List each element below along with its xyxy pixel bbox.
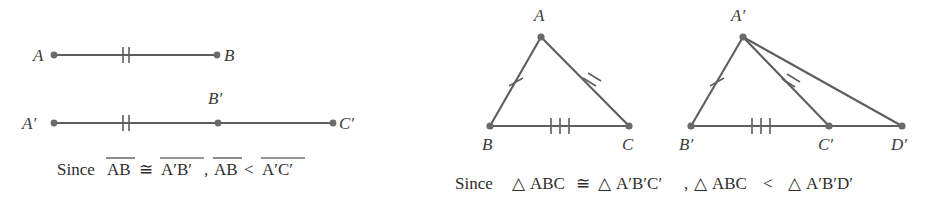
right-caption-tri-symbol-4: △ [788, 174, 802, 193]
point-a-prime-label: A′ [21, 114, 36, 133]
right-caption-comma: , [684, 174, 688, 193]
right-caption-less-than: < [763, 174, 773, 193]
left-caption-congruent: ≅ [139, 160, 153, 179]
point-b-prime-label: B′ [208, 89, 222, 108]
triangle-abcd-vertex-d-dot [898, 122, 905, 129]
right-caption-tri-symbol-2: △ [598, 174, 612, 193]
left-caption-less-than: < [244, 160, 254, 179]
triangle-abcd-tick-ac-2 [787, 74, 800, 82]
left-caption-seg-apcp: A′C′ [262, 160, 293, 179]
triangle-abcd-label-c: C′ [818, 135, 833, 154]
right-caption-tri-abc: ABC [530, 174, 565, 193]
right-caption-tri-abc-2: ABC [712, 174, 747, 193]
triangle-abcd-vertex-b-dot [687, 122, 694, 129]
right-caption-tri-apbpdp: A′B′D′ [806, 174, 853, 193]
triangle-abcd-tick-ac-1 [782, 79, 795, 87]
point-c-prime-dot [330, 120, 337, 127]
triangle-abc-vertex-a-dot [537, 33, 544, 40]
triangle-abc-side-ac [541, 37, 629, 126]
point-b-dot [214, 52, 221, 59]
right-caption: Since △ ABC ≅ △ A′B′C′ , △ ABC < △ A′B′D… [455, 174, 853, 193]
point-c-prime-label: C′ [339, 114, 354, 133]
segment-abc-group: A′ B′ C′ [21, 89, 354, 133]
triangle-abcd-label-a: A′ [730, 6, 745, 25]
triangle-abcd-group: A′ B′ C′ D′ [679, 6, 907, 154]
triangle-abcd-label-d: D′ [890, 135, 907, 154]
geometry-figure: A B A′ B′ C′ Since AB ≅ A′B′ , AB < [0, 0, 946, 204]
left-caption-seg-apbp: A′B′ [161, 160, 192, 179]
point-b-prime-dot [215, 120, 222, 127]
left-caption-seg-ab-2: AB [214, 160, 238, 179]
triangle-abcd-vertex-a-dot [739, 33, 746, 40]
triangle-abcd-vertex-c-dot [825, 122, 832, 129]
triangle-abc-tick-ac-2 [588, 73, 601, 81]
triangle-abcd-label-b: B′ [679, 135, 693, 154]
point-a-prime-dot [51, 120, 58, 127]
triangle-abc-label-b: B [482, 135, 493, 154]
triangle-abc-group: A B C [482, 6, 634, 154]
left-caption-comma: , [204, 160, 208, 179]
triangle-abc-label-a: A [533, 6, 545, 25]
left-caption: Since AB ≅ A′B′ , AB < A′C′ [57, 158, 305, 179]
triangle-abc-label-c: C [622, 135, 634, 154]
triangle-abcd-tick-ab-1 [710, 78, 724, 86]
segment-ab-group: A B [32, 46, 235, 65]
right-caption-since: Since [455, 174, 493, 193]
point-a-label: A [32, 46, 44, 65]
triangle-abcd-side-ad [743, 37, 902, 126]
point-a-dot [51, 52, 58, 59]
left-caption-seg-ab: AB [107, 160, 131, 179]
figure-canvas: A B A′ B′ C′ Since AB ≅ A′B′ , AB < [0, 0, 946, 204]
right-caption-tri-symbol-3: △ [694, 174, 708, 193]
triangle-abc-vertex-c-dot [625, 122, 632, 129]
right-caption-congruent: ≅ [576, 174, 590, 193]
right-caption-tri-symbol-1: △ [512, 174, 526, 193]
triangle-abc-vertex-b-dot [486, 122, 493, 129]
point-b-label: B [224, 46, 235, 65]
left-caption-since: Since [57, 160, 95, 179]
right-caption-tri-apbpcp: A′B′C′ [616, 174, 662, 193]
